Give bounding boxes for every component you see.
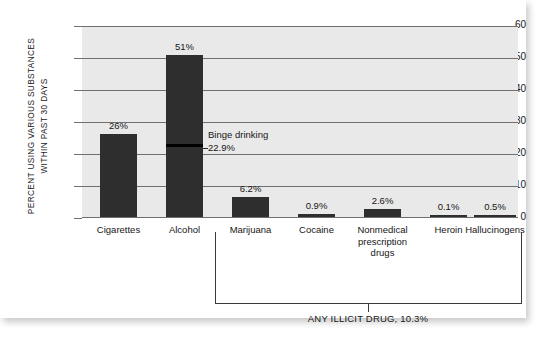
- bar-hallucinogens[interactable]: [474, 215, 516, 217]
- y-axis-title: PERCENT USING VARIOUS SUBSTANCES WITHIN …: [25, 21, 51, 231]
- y-axis-title-line-1: PERCENT USING VARIOUS SUBSTANCES: [25, 21, 38, 231]
- binge-drinking-label-line-2: 22.9%: [208, 142, 235, 153]
- x-label-nonmedical-line-3: drugs: [357, 247, 407, 259]
- any-illicit-drug-label: ANY ILLICIT DRUG, 10.3%: [308, 313, 428, 324]
- x-label-nonmedical-line-1: Nonmedical: [357, 224, 407, 236]
- x-label-cigarettes: Cigarettes: [97, 224, 140, 236]
- gridline-10: [82, 186, 518, 187]
- chart-page: PERCENT USING VARIOUS SUBSTANCES WITHIN …: [0, 0, 552, 340]
- bracket-right-arm: [521, 232, 522, 304]
- value-label-nonmedical-prescription-drugs: 2.6%: [372, 195, 394, 206]
- bar-cocaine[interactable]: [298, 214, 335, 217]
- binge-drinking-line: [166, 144, 203, 147]
- value-label-hallucinogens: 0.5%: [484, 201, 506, 212]
- y-tickmark-50: [74, 58, 82, 59]
- plot-area: Binge drinking 22.9% 26% 51% 6.2% 0.9% 2…: [82, 26, 518, 218]
- value-label-marijuana: 6.2%: [240, 183, 262, 194]
- bar-heroin[interactable]: [430, 215, 467, 217]
- y-tickmark-20: [74, 154, 82, 155]
- x-label-heroin: Heroin: [435, 224, 463, 236]
- x-label-marijuana: Marijuana: [230, 224, 272, 236]
- binge-drinking-label-line-1: Binge drinking: [208, 129, 268, 140]
- value-label-heroin: 0.1%: [438, 201, 460, 212]
- x-label-hallucinogens: Hallucinogens: [465, 224, 525, 236]
- y-tickmark-10: [74, 186, 82, 187]
- bar-nonmedical-prescription-drugs[interactable]: [364, 209, 401, 217]
- x-label-cocaine: Cocaine: [299, 224, 334, 236]
- x-label-nonmedical-line-2: prescription: [357, 236, 407, 248]
- y-axis-title-line-2: WITHIN PAST 30 DAYS: [38, 21, 51, 231]
- bar-alcohol[interactable]: [166, 55, 203, 217]
- gridline-50: [82, 58, 518, 59]
- value-label-alcohol: 51%: [175, 41, 194, 52]
- y-tickmark-40: [74, 90, 82, 91]
- x-label-alcohol: Alcohol: [169, 224, 200, 236]
- value-label-cigarettes: 26%: [109, 120, 128, 131]
- gridline-60: [82, 26, 518, 27]
- chart-card: PERCENT USING VARIOUS SUBSTANCES WITHIN …: [0, 0, 526, 318]
- value-label-cocaine: 0.9%: [306, 200, 328, 211]
- gridline-30: [82, 122, 518, 123]
- y-tickmark-60: [74, 26, 82, 27]
- gridline-40: [82, 90, 518, 91]
- x-label-nonmedical-prescription-drugs: Nonmedical prescription drugs: [357, 224, 407, 259]
- bar-cigarettes[interactable]: [100, 134, 137, 217]
- y-tickmark-30: [74, 122, 82, 123]
- gridline-20: [82, 154, 518, 155]
- y-tickmark-0: [74, 218, 82, 219]
- bracket-left-arm: [215, 232, 216, 304]
- bar-marijuana[interactable]: [232, 197, 269, 217]
- bracket-stem: [368, 303, 369, 312]
- x-axis-baseline: [82, 217, 518, 218]
